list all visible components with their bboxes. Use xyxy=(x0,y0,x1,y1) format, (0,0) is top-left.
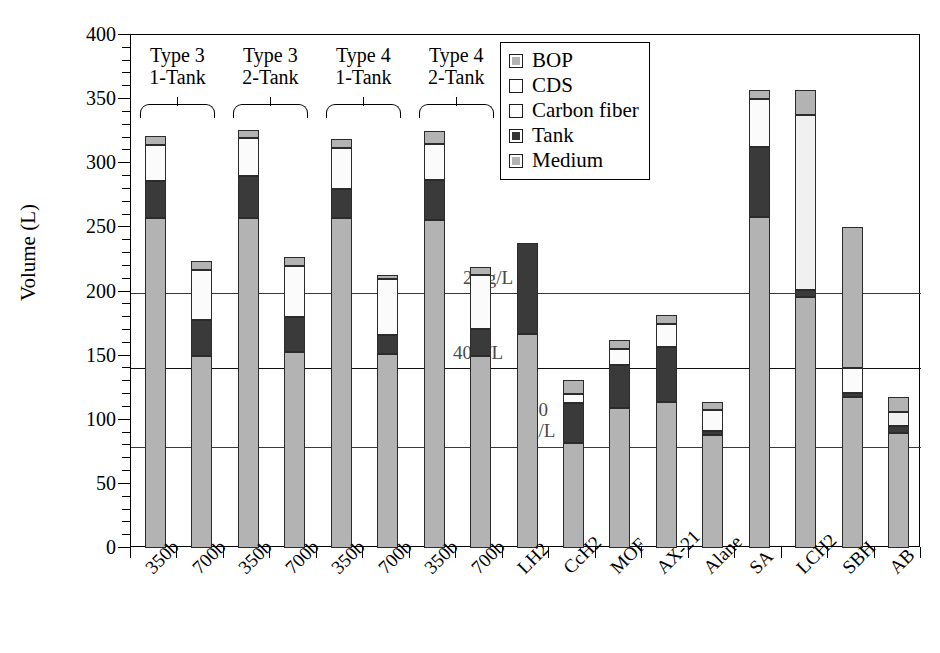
legend-item-bop: BOP xyxy=(509,48,639,73)
x-tick xyxy=(130,547,131,558)
x-tick-label: CcH2 xyxy=(559,532,606,579)
legend-label: Tank xyxy=(532,125,574,146)
legend-label: Carbon fiber xyxy=(532,100,639,121)
legend-label: Medium xyxy=(532,150,603,171)
x-tick-label: SBH xyxy=(838,537,880,579)
x-tick-label: AB xyxy=(885,544,919,578)
x-tick-label: LCH2 xyxy=(792,529,841,578)
legend-swatch-icon xyxy=(509,154,523,168)
legend-item-cds: CDS xyxy=(509,73,639,98)
legend-label: CDS xyxy=(532,75,573,96)
x-tick-label: 350b xyxy=(234,536,276,578)
legend-swatch-icon xyxy=(509,104,523,118)
x-tick-label: 700b xyxy=(281,536,323,578)
legend-item-tank: Tank xyxy=(509,123,639,148)
x-tick-label: MOF xyxy=(606,534,651,579)
x-axis: 350b700b350b700b350b700b350b700bLH2CcH2M… xyxy=(0,0,940,653)
legend-item-carbon-fiber: Carbon fiber xyxy=(509,98,639,123)
x-tick-label: SA xyxy=(745,546,778,579)
x-tick-label: Alane xyxy=(699,531,747,579)
x-tick xyxy=(920,547,921,558)
x-tick-label: 700b xyxy=(467,536,509,578)
legend-label: BOP xyxy=(532,50,573,71)
x-tick-label: LH2 xyxy=(513,538,553,578)
legend-swatch-icon xyxy=(509,54,523,68)
x-tick-label: 700b xyxy=(374,536,416,578)
x-tick-label: 350b xyxy=(327,536,369,578)
x-tick-label: 700b xyxy=(188,536,230,578)
x-tick-label: AX-21 xyxy=(652,526,705,579)
legend-item-medium: Medium xyxy=(509,148,639,173)
x-tick xyxy=(781,547,782,558)
legend-swatch-icon xyxy=(509,79,523,93)
x-tick-label: 350b xyxy=(420,536,462,578)
legend-swatch-icon xyxy=(509,129,523,143)
legend: BOPCDSCarbon fiberTankMedium xyxy=(500,42,650,180)
x-tick-label: 350b xyxy=(141,536,183,578)
chart-root: Volume (L) 050100150200250300350400 28 g… xyxy=(0,0,940,653)
